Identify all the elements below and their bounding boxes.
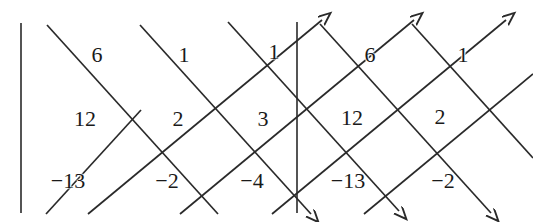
label-6-top-right: 6 — [365, 44, 376, 66]
label-2-mid-right: 2 — [435, 106, 446, 128]
label-1-top-far-right: 1 — [458, 44, 469, 66]
label-3-mid-b: 3 — [258, 108, 269, 130]
label-neg13-bottom-left: −13 — [51, 170, 85, 192]
asc-arrow-5 — [364, 74, 533, 214]
label-neg4-bottom-b: −4 — [240, 170, 263, 192]
label-12-mid-left: 12 — [74, 108, 96, 130]
label-neg2-bottom-right: −2 — [431, 170, 454, 192]
desc-arrow-5 — [412, 24, 533, 158]
label-neg13-bottom-center: −13 — [331, 170, 365, 192]
label-neg2-bottom-a: −2 — [155, 170, 178, 192]
label-1-top-center: 1 — [269, 41, 280, 63]
label-6-top-left: 6 — [92, 44, 103, 66]
label-12-mid-center: 12 — [341, 107, 363, 129]
asc-arrow-2 — [88, 20, 322, 214]
asc-arrow-4 — [272, 20, 506, 214]
label-1-top-mid: 1 — [179, 44, 190, 66]
label-2-mid-a: 2 — [173, 108, 184, 130]
figure-canvas: 611611223122−13−2−4−13−2 — [0, 0, 533, 222]
